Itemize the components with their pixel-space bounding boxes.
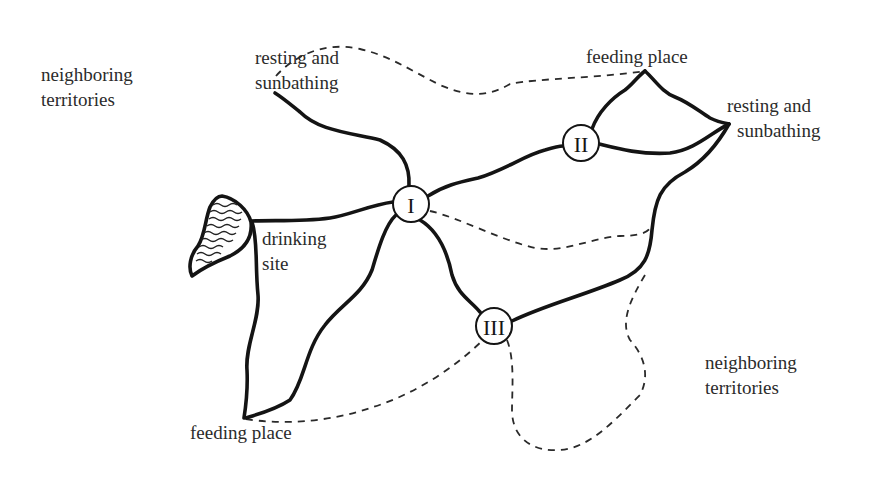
path-resting-right-to-III xyxy=(512,124,729,321)
node-I-label: I xyxy=(407,193,414,218)
label-line: sunbathing xyxy=(255,70,339,95)
label-line: resting and xyxy=(727,93,820,118)
boundary-lower-loop xyxy=(507,275,645,450)
path-I-to-drinking-site xyxy=(251,202,393,221)
path-feeding-to-resting-right xyxy=(645,71,729,124)
label-neighboring-territories-bottom-right: neighboring territories xyxy=(705,350,797,400)
label-feeding-place-top-right: feeding place xyxy=(586,44,688,69)
node-III-label: III xyxy=(483,315,505,340)
label-line: neighboring xyxy=(41,62,133,87)
label-line: feeding place xyxy=(190,420,292,445)
drinking-site-pond xyxy=(190,196,251,276)
label-drinking-site: drinking site xyxy=(262,226,326,276)
label-resting-right: resting and sunbathing xyxy=(727,93,820,143)
node-II: II xyxy=(563,125,599,161)
path-I-to-II xyxy=(428,146,563,196)
label-line: drinking xyxy=(262,226,326,251)
label-feeding-place-bottom-left: feeding place xyxy=(190,420,292,445)
label-line: feeding place xyxy=(586,44,688,69)
path-I-to-III xyxy=(420,220,480,312)
node-III: III xyxy=(476,308,512,344)
boundary-bottom xyxy=(246,340,483,422)
label-resting-top-left: resting and sunbathing xyxy=(255,45,339,95)
path-drinking-to-feeding xyxy=(244,222,258,418)
node-I: I xyxy=(393,186,429,222)
label-line: resting and xyxy=(255,45,339,70)
label-neighboring-territories-top-left: neighboring territories xyxy=(41,62,133,112)
label-line: territories xyxy=(705,375,797,400)
path-II-to-feeding-top-right xyxy=(592,71,645,129)
path-I-to-resting-top-left xyxy=(275,93,409,186)
label-line: sunbathing xyxy=(727,118,820,143)
node-II-label: II xyxy=(574,132,589,157)
label-line: territories xyxy=(41,87,133,112)
boundary-middle xyxy=(430,211,650,249)
pond-outline xyxy=(190,196,251,276)
label-line: neighboring xyxy=(705,350,797,375)
label-line: site xyxy=(262,251,326,276)
